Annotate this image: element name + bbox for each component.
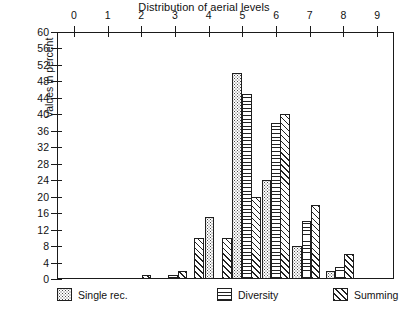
legend-label: Summing [354, 289, 398, 301]
bar [280, 114, 290, 279]
bar [311, 205, 321, 279]
y-tick-label: 32 [23, 141, 49, 153]
y-tick-label: 0 [23, 273, 49, 285]
legend-swatch-icon [57, 288, 72, 301]
y-tick-mark-inner [57, 279, 62, 280]
y-tick-label: 4 [23, 257, 49, 269]
bar [194, 238, 204, 279]
bar [344, 254, 354, 279]
y-tick-label: 48 [23, 75, 49, 87]
y-tick-label: 52 [23, 59, 49, 71]
x-tick-label: 1 [98, 9, 118, 21]
y-tick-label: 56 [23, 42, 49, 54]
bar [142, 275, 152, 279]
bar [178, 271, 188, 279]
x-tick-label: 6 [266, 9, 286, 21]
y-tick-label: 20 [23, 191, 49, 203]
legend-label: Single rec. [78, 289, 128, 301]
x-tick-label: 2 [131, 9, 151, 21]
x-tick-label: 8 [333, 9, 353, 21]
y-tick-label: 36 [23, 125, 49, 137]
bar [205, 217, 215, 279]
x-tick-label: 0 [64, 9, 84, 21]
y-tick-label: 44 [23, 92, 49, 104]
x-tick-label: 7 [300, 9, 320, 21]
y-tick-label: 28 [23, 158, 49, 170]
legend-item[interactable]: Summing [333, 288, 398, 301]
legend-swatch-icon [217, 288, 232, 301]
y-tick-label: 60 [23, 26, 49, 38]
x-tick-label: 9 [367, 9, 387, 21]
bar [251, 197, 261, 279]
x-tick-label: 3 [165, 9, 185, 21]
bar-series-container [57, 32, 394, 279]
legend-label: Diversity [238, 289, 278, 301]
chart-legend: Single rec.DiversitySumming [57, 288, 394, 310]
legend-swatch-icon [333, 288, 348, 301]
y-tick-label: 8 [23, 240, 49, 252]
y-tick-label: 12 [23, 224, 49, 236]
bar [262, 180, 272, 279]
bar [222, 238, 232, 279]
legend-item[interactable]: Single rec. [57, 288, 128, 301]
x-tick-label: 4 [199, 9, 219, 21]
x-tick-label: 5 [232, 9, 252, 21]
bar [292, 246, 302, 279]
y-tick-label: 40 [23, 108, 49, 120]
legend-item[interactable]: Diversity [217, 288, 278, 301]
bar-chart-figure: Distribution of aerial levels 0123456789… [0, 0, 408, 315]
bar [232, 73, 242, 279]
y-tick-label: 24 [23, 174, 49, 186]
y-tick-label: 16 [23, 207, 49, 219]
